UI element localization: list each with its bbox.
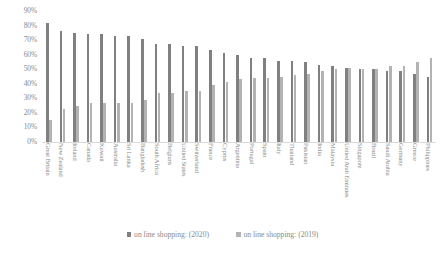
bar-group — [124, 11, 138, 142]
x-axis-label-cell: Germany — [395, 143, 409, 223]
x-axis-label-cell: South Africa — [151, 143, 165, 223]
x-axis-label-cell: Australia — [110, 143, 124, 223]
x-axis-label-cell: Saudi Arabia — [382, 143, 396, 223]
legend-swatch-icon — [127, 232, 132, 237]
bar-2019 — [362, 69, 365, 142]
legend-swatch-icon — [236, 232, 241, 237]
y-axis-tick-label: 30% — [24, 94, 37, 102]
bar-2019 — [253, 78, 256, 142]
bar-group — [327, 11, 341, 142]
x-axis-label-cell: Brazil — [368, 143, 382, 223]
legend-item[interactable]: on line shopping: (2020) — [127, 230, 209, 239]
bar-group — [260, 11, 274, 142]
x-axis-label-cell: Pakistan — [300, 143, 314, 223]
bar-group — [42, 11, 56, 142]
x-axis-tick-label: New Zealand — [59, 143, 66, 177]
x-axis-tick-label: Singapore — [358, 143, 365, 168]
bar-series-container — [42, 11, 436, 142]
bar-group — [314, 11, 328, 142]
bar-group — [287, 11, 301, 142]
y-axis-tick-label: 60% — [24, 51, 37, 59]
bar-group — [110, 11, 124, 142]
bar-2019 — [63, 109, 66, 142]
bar-2019 — [280, 77, 283, 143]
bar-group — [205, 11, 219, 142]
bar-2019 — [416, 62, 419, 142]
y-axis-tick-label: 50% — [24, 65, 37, 73]
bar-group — [151, 11, 165, 142]
x-axis-label-cell: Singapore — [355, 143, 369, 223]
bar-2019 — [90, 103, 93, 142]
x-axis-tick-label: Pakistan — [303, 143, 310, 164]
chart-legend: on line shopping: (2020)on line shopping… — [0, 230, 445, 239]
y-axis-tick-label: 40% — [24, 80, 37, 88]
bar-group — [246, 11, 260, 142]
x-axis-tick-label: Italy — [276, 143, 283, 154]
y-axis-tick-label: 20% — [24, 109, 37, 117]
x-axis-label-cell: Belgium — [164, 143, 178, 223]
bar-2019 — [199, 91, 202, 142]
legend-label: on line shopping: (2019) — [244, 230, 319, 239]
x-axis-label-cell: Argentina — [232, 143, 246, 223]
bar-2019 — [144, 100, 147, 142]
x-axis-label-cell: Spain — [260, 143, 274, 223]
x-axis-tick-label: Great Britain — [45, 143, 52, 176]
x-axis-tick-label: France — [208, 143, 215, 160]
x-axis-tick-label: Cyprus — [222, 143, 229, 161]
x-axis-label-cell: Ireland — [69, 143, 83, 223]
x-axis-tick-label: Ireland — [72, 143, 79, 161]
bar-group — [232, 11, 246, 142]
bar-2019 — [294, 75, 297, 142]
bar-2019 — [267, 78, 270, 142]
x-axis-tick-label: Portugal — [249, 143, 256, 164]
x-axis-tick-label: Sri Lanka — [127, 143, 134, 167]
bar-2019 — [131, 103, 134, 142]
plot-area — [42, 11, 436, 142]
x-axis-label-cell: United Arab Emirates — [341, 143, 355, 223]
bar-2019 — [185, 91, 188, 142]
x-axis-label-cell: India — [314, 143, 328, 223]
bar-group — [300, 11, 314, 142]
bar-2019 — [76, 106, 79, 142]
bar-group — [69, 11, 83, 142]
x-axis-label-cell: Canada — [83, 143, 97, 223]
x-axis-label-cell: Philippines — [423, 143, 437, 223]
bar-2019 — [389, 66, 392, 142]
x-axis-tick-label: Malaysia — [330, 143, 337, 166]
bar-2019 — [430, 58, 433, 142]
bar-2019 — [226, 82, 229, 142]
bar-group — [341, 11, 355, 142]
x-axis-tick-label: South Africa — [154, 143, 161, 175]
bar-chart: 90%80%70%60%50%40%30%20%10%0% Great Brit… — [0, 0, 445, 261]
x-axis-tick-label: Saudi Arabia — [385, 143, 392, 175]
x-axis-label-cell: Bangladesh — [137, 143, 151, 223]
bar-group — [273, 11, 287, 142]
bar-group — [137, 11, 151, 142]
x-axis-tick-label: India — [317, 143, 324, 156]
bar-2019 — [307, 74, 310, 142]
bar-2019 — [348, 68, 351, 142]
bar-group — [178, 11, 192, 142]
x-axis-category-labels: Great BritainNew ZealandIrelandCanadaKuw… — [42, 143, 436, 223]
bar-2019 — [335, 69, 338, 142]
bar-group — [409, 11, 423, 142]
bar-2019 — [117, 103, 120, 142]
x-axis-label-cell: New Zealand — [56, 143, 70, 223]
x-axis-tick-label: Germany — [398, 143, 405, 166]
x-axis-label-cell: Italy — [273, 143, 287, 223]
bar-group — [368, 11, 382, 142]
y-axis-tick-label: 70% — [24, 36, 37, 44]
x-axis-tick-label: Brazil — [371, 143, 378, 158]
bar-group — [395, 11, 409, 142]
bar-group — [423, 11, 437, 142]
y-axis-tick-label: 10% — [24, 123, 37, 131]
bar-group — [83, 11, 97, 142]
x-axis-label-cell: Kuwait — [96, 143, 110, 223]
x-axis-tick-label: Belgium — [167, 143, 174, 165]
x-axis-tick-label: Argentina — [235, 143, 242, 168]
bar-group — [219, 11, 233, 142]
x-axis-label-cell: Malaysia — [327, 143, 341, 223]
x-axis-label-cell: Greece — [409, 143, 423, 223]
bar-group — [382, 11, 396, 142]
legend-item[interactable]: on line shopping: (2019) — [236, 230, 318, 239]
